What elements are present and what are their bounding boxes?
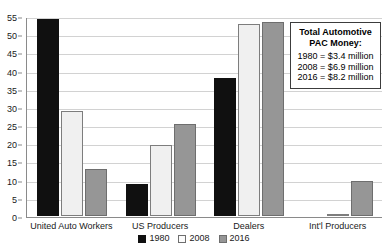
y-axis-tick-label: 5 — [12, 195, 17, 204]
annotation-box: Total Automotive PAC Money: 1980 = $3.4 … — [290, 22, 381, 89]
annotation-title-line-2: PAC Money: — [295, 38, 376, 49]
y-axis-tick-mark — [18, 127, 22, 128]
y-axis-tick-label: 45 — [7, 50, 17, 59]
y-axis-tick-mark — [18, 72, 22, 73]
x-axis-label: Int'l Producers — [293, 221, 382, 231]
bar-group — [205, 18, 294, 216]
y-axis-tick-mark — [18, 54, 22, 55]
y-axis-tick-mark — [18, 218, 22, 219]
y-axis-tick-label: 55 — [7, 14, 17, 23]
y-axis-tick-mark — [18, 108, 22, 109]
y-axis-tick-label: 35 — [7, 86, 17, 95]
y-axis-tick-label: 50 — [7, 32, 17, 41]
y-axis-tick-label: 20 — [7, 141, 17, 150]
x-axis-label: United Auto Workers — [27, 221, 116, 231]
x-axis-label: Dealers — [205, 221, 294, 231]
bar — [262, 22, 284, 216]
y-axis-tick-mark — [18, 181, 22, 182]
y-axis-tick-label: 15 — [7, 159, 17, 168]
legend-label: 1980 — [149, 234, 169, 243]
y-axis-tick-label: 30 — [7, 104, 17, 113]
bar — [126, 184, 148, 216]
y-axis-tick-mark — [18, 145, 22, 146]
y-axis: 0510152025303540455055 — [0, 18, 22, 218]
y-axis-tick-mark — [18, 163, 22, 164]
x-axis-label: US Producers — [116, 221, 205, 231]
bar — [150, 145, 172, 216]
bar — [85, 169, 107, 216]
bar — [351, 181, 373, 216]
bar-group — [28, 18, 117, 216]
bar — [238, 24, 260, 216]
legend-item: 2008 — [178, 234, 209, 243]
y-axis-tick-label: 10 — [7, 177, 17, 186]
bar — [37, 19, 59, 216]
bar — [61, 111, 83, 216]
annotation-line: 2016 = $8.2 million — [295, 72, 376, 83]
y-axis-tick-mark — [18, 90, 22, 91]
chart-legend: 198020082016 — [0, 234, 388, 243]
bar — [214, 78, 236, 216]
x-axis-labels: United Auto WorkersUS ProducersDealersIn… — [27, 221, 382, 231]
y-axis-tick-label: 25 — [7, 123, 17, 132]
bar — [327, 214, 349, 216]
legend-item: 1980 — [138, 234, 169, 243]
y-axis-tick-mark — [18, 18, 22, 19]
annotation-values: 1980 = $3.4 million2008 = $6.9 million20… — [295, 51, 376, 83]
bar-group — [117, 18, 206, 216]
legend-swatch-icon — [219, 235, 227, 243]
legend-label: 2008 — [189, 234, 209, 243]
bar — [174, 124, 196, 216]
y-axis-tick-label: 40 — [7, 68, 17, 77]
legend-label: 2016 — [230, 234, 250, 243]
annotation-line: 1980 = $3.4 million — [295, 51, 376, 62]
legend-swatch-icon — [178, 235, 186, 243]
legend-swatch-icon — [138, 235, 146, 243]
annotation-line: 2008 = $6.9 million — [295, 62, 376, 73]
legend-item: 2016 — [219, 234, 250, 243]
y-axis-tick-label: 0 — [12, 214, 17, 223]
y-axis-tick-mark — [18, 199, 22, 200]
y-axis-tick-mark — [18, 36, 22, 37]
bar-chart: 0510152025303540455055 United Auto Worke… — [0, 0, 388, 250]
annotation-title-line-1: Total Automotive — [295, 27, 376, 38]
